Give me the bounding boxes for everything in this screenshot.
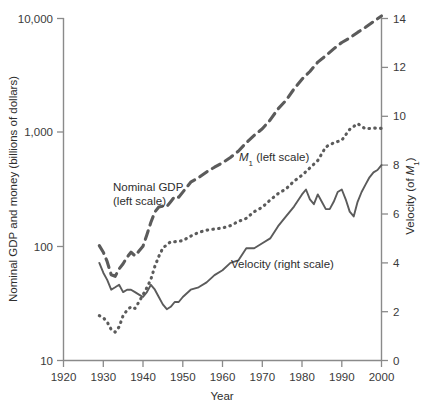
- svg-text:Velocity (of M1): Velocity (of M1): [404, 157, 421, 235]
- y-right-title-prefix: Velocity (of: [404, 175, 416, 234]
- x-tick-label-1950: 1950: [170, 371, 196, 383]
- x-tick-label-1960: 1960: [210, 371, 236, 383]
- x-tick-label-2000: 2000: [369, 371, 395, 383]
- x-tick-label-1980: 1980: [289, 371, 315, 383]
- y-right-title-suffix: ): [404, 157, 416, 161]
- right-tick-label-10: 10: [393, 110, 406, 122]
- left-axis-tick-labels: 10,000 1,000 100 10: [18, 13, 53, 367]
- annotation-gdp-line2: (left scale): [113, 195, 166, 207]
- x-tick-label-1930: 1930: [91, 371, 117, 383]
- x-axis-title: Year: [210, 390, 233, 402]
- x-tick-label-1990: 1990: [329, 371, 355, 383]
- right-tick-label-2: 2: [393, 306, 399, 318]
- annotation-m1-rest: (left scale): [253, 151, 309, 163]
- right-tick-label-4: 4: [393, 257, 400, 269]
- left-tick-label-1000: 1,000: [24, 126, 53, 138]
- chart-canvas: 10,000 1,000 100 10 14 12 10 8 6 4 2 0: [0, 0, 425, 410]
- axis-frame: [64, 18, 382, 361]
- annotation-gdp-line1: Nominal GDP: [113, 181, 184, 193]
- annotation-m1-var: M: [239, 151, 249, 163]
- chart-figure: 10,000 1,000 100 10 14 12 10 8 6 4 2 0: [0, 0, 425, 410]
- right-tick-label-8: 8: [393, 159, 399, 171]
- right-tick-label-14: 14: [393, 13, 406, 25]
- x-axis-tick-labels: 1920 1930 1940 1950 1960 1970 1980 1990 …: [51, 371, 395, 383]
- series-nominal-gdp: [99, 16, 381, 276]
- left-tick-label-10: 10: [40, 355, 53, 367]
- y-left-axis-title: Nominal GDP and money (billions of dolla…: [7, 76, 19, 302]
- y-right-title-var: M: [404, 165, 416, 175]
- x-tick-label-1920: 1920: [51, 371, 77, 383]
- y-right-axis-title: Velocity (of M1): [404, 157, 421, 235]
- left-tick-label-100: 100: [34, 241, 53, 253]
- right-tick-label-0: 0: [393, 355, 399, 367]
- right-tick-label-6: 6: [393, 208, 399, 220]
- x-tick-label-1940: 1940: [130, 371, 156, 383]
- annotation-nominal-gdp: Nominal GDP (left scale): [113, 181, 184, 207]
- annotation-velocity: Velocity (right scale): [231, 258, 334, 270]
- annotation-m1: M1 (left scale): [239, 151, 309, 168]
- x-tick-label-1970: 1970: [250, 371, 276, 383]
- left-tick-label-10000: 10,000: [18, 13, 53, 25]
- right-tick-label-12: 12: [393, 61, 406, 73]
